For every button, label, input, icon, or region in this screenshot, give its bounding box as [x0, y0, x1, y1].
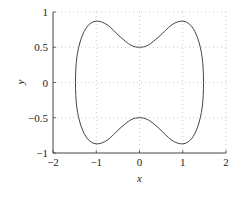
y-tick-label: 0.5 [34, 41, 48, 53]
x-tick-label: 1 [180, 156, 186, 168]
chart: −2−1012 10.50−0.5−1 x y [0, 0, 237, 204]
x-axis-label: x [136, 172, 142, 184]
x-tick-label: 0 [137, 156, 143, 168]
x-tick-label: −2 [47, 156, 59, 168]
y-tick-labels: 10.50−0.5−1 [28, 6, 48, 159]
grid-lines [53, 12, 226, 153]
y-tick-label: 0 [43, 77, 49, 89]
y-tick-label: 1 [43, 6, 49, 18]
x-tick-labels: −2−1012 [47, 156, 229, 168]
x-tick-label: 2 [223, 156, 229, 168]
y-tick-label: −0.5 [28, 112, 48, 124]
y-tick-label: −1 [36, 147, 48, 159]
axes [53, 12, 226, 153]
data-curve [75, 21, 203, 144]
y-axis-label: y [14, 79, 26, 85]
x-tick-label: −1 [90, 156, 102, 168]
